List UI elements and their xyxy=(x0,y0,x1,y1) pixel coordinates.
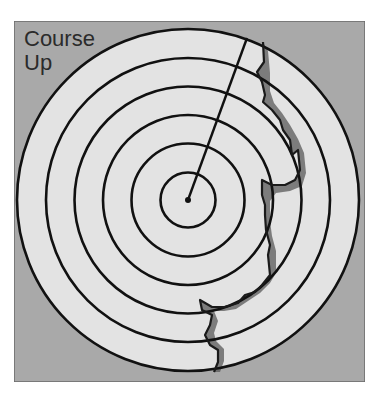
mode-label-line2: Up xyxy=(24,51,95,75)
mode-label-line1: Course xyxy=(24,27,95,51)
radar-display: Course Up xyxy=(14,21,365,382)
mode-label: Course Up xyxy=(24,27,95,75)
radar-scope xyxy=(14,21,365,382)
own-ship-dot-icon xyxy=(185,197,191,203)
